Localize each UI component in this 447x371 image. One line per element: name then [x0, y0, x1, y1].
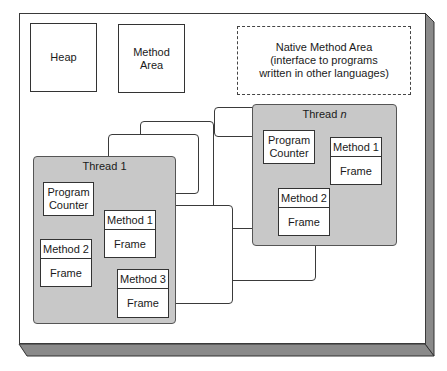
method-label: Method 3 [118, 270, 168, 289]
method-area-label-line2: Area [140, 59, 163, 72]
heap-box: Heap [30, 23, 97, 92]
method-label: Method 2 [41, 240, 91, 259]
native-method-area-desc-line2: written in other languages) [259, 67, 389, 80]
thread-1-stack-frame-method-2: Method 2 Frame [40, 239, 92, 287]
thread-1-program-counter: Program Counter [43, 182, 94, 216]
method-area-box: Method Area [118, 24, 185, 93]
method-label: Method 1 [331, 138, 381, 157]
native-method-area-title: Native Method Area [276, 41, 373, 54]
thread-n-title: Thread n [253, 108, 396, 120]
frame-label: Frame [41, 259, 91, 286]
thread-1-stack-frame-method-3: Method 3 Frame [117, 269, 169, 318]
frame-label: Frame [279, 208, 329, 235]
thread-1-stack-frame-method-1: Method 1 Frame [104, 210, 156, 258]
native-method-area-box: Native Method Area (interface to program… [237, 26, 411, 95]
method-area-label-line1: Method [133, 46, 170, 59]
native-method-area-desc-line1: (interface to programs [270, 54, 378, 67]
thread-n-variable: n [340, 108, 346, 120]
thread-n-stack-frame-method-2: Method 2 Frame [278, 188, 330, 236]
thread-n-program-counter: Program Counter [263, 130, 315, 164]
method-label: Method 2 [279, 189, 329, 208]
method-label: Method 1 [105, 211, 155, 230]
frame-label: Frame [105, 230, 155, 257]
frame-label: Frame [331, 157, 381, 184]
thread-n-stack-frame-method-1: Method 1 Frame [330, 137, 382, 185]
frame-label: Frame [118, 289, 168, 317]
thread-1-title: Thread 1 [34, 160, 175, 172]
heap-label: Heap [50, 51, 76, 64]
